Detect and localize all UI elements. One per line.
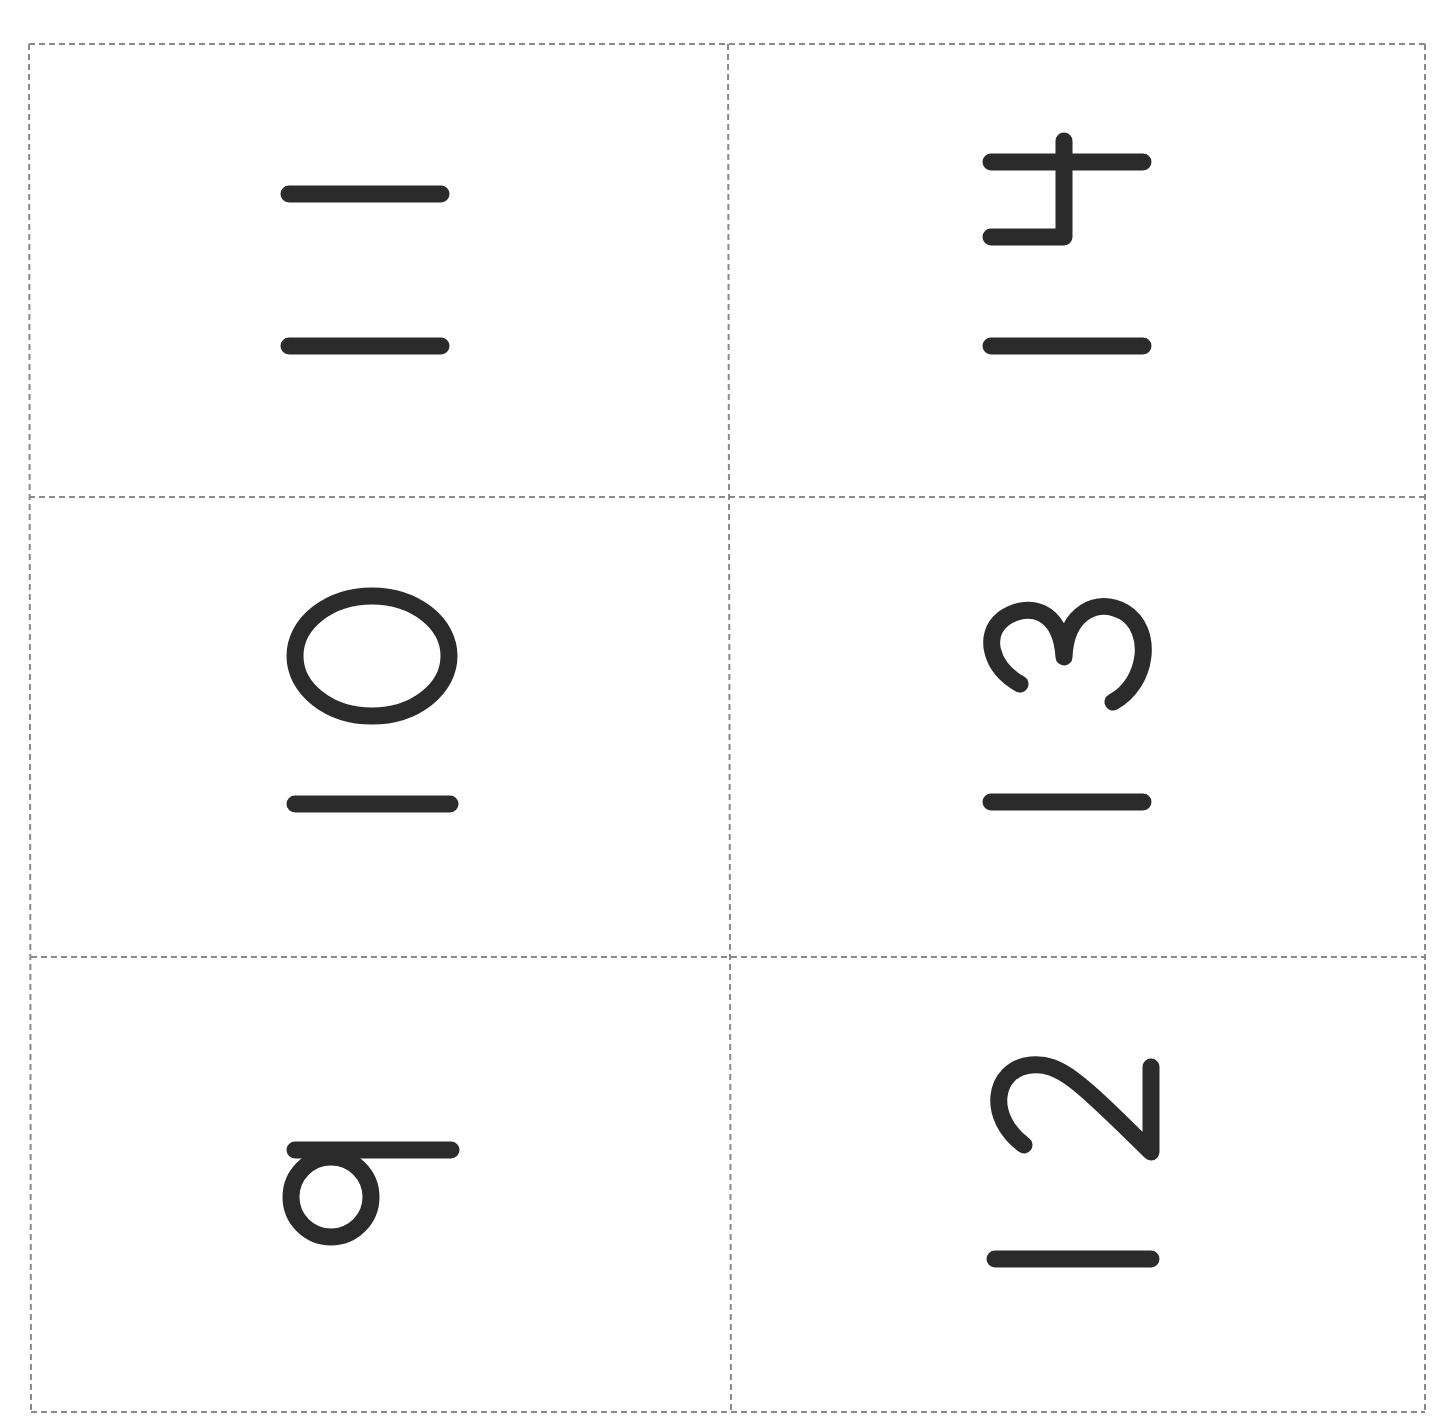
numeral-glyph <box>728 497 1425 957</box>
number-card: 10 <box>29 497 728 957</box>
numeral-glyph <box>29 497 728 957</box>
numeral-glyph <box>31 957 728 1412</box>
number-card: 9 <box>31 957 728 1412</box>
number-card: 12 <box>731 957 1425 1412</box>
number-card: 14 <box>728 44 1425 497</box>
numeral-glyph <box>728 44 1425 497</box>
number-card-sheet: 11 14 10 13 9 <box>0 0 1443 1416</box>
number-card: 11 <box>29 44 728 497</box>
numeral-glyph <box>29 44 728 497</box>
number-card: 13 <box>728 497 1425 957</box>
numeral-glyph <box>731 957 1425 1412</box>
